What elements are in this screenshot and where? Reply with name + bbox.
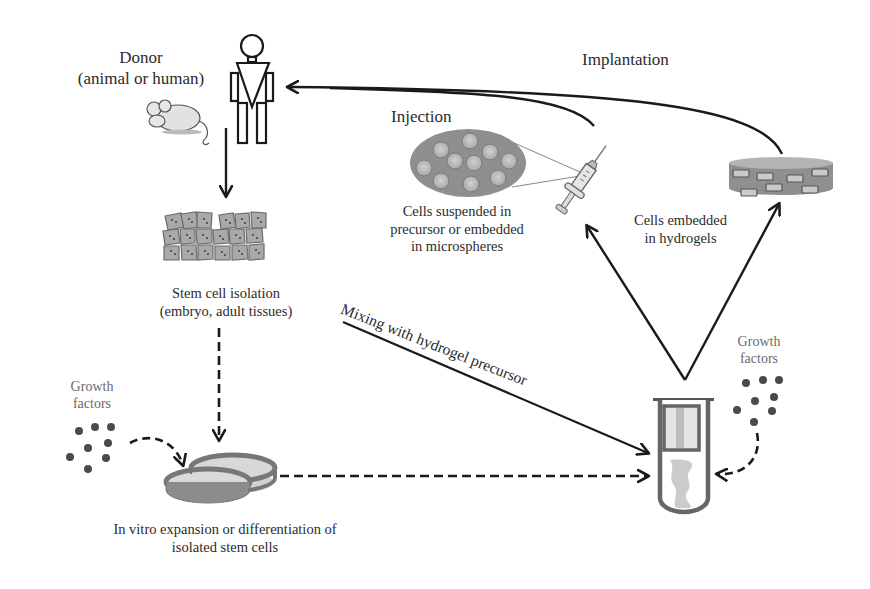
in-vitro-label: In vitro expansion or differentiation of…: [70, 521, 380, 556]
donor-label: Donor (animal or human): [76, 48, 206, 89]
donor-label-line1: Donor: [76, 48, 206, 69]
arrow-mixing-hydrogel: [343, 322, 648, 453]
test-tube-icon: [653, 398, 714, 512]
cells-suspended-line3: in microspheres: [362, 238, 552, 256]
growth-factors-right-label: Growth factors: [729, 333, 789, 367]
injection-label: Injection: [391, 107, 451, 128]
growth-factors-left-line2: factors: [62, 395, 122, 412]
syringe-icon: [551, 139, 615, 217]
cells-embedded-line1: Cells embedded: [618, 212, 743, 230]
in-vitro-line2: isolated stem cells: [70, 539, 380, 557]
growth-factor-dots-left-icon: [66, 423, 115, 473]
cells-suspended-line2: precursor or embedded: [362, 221, 552, 239]
growth-factors-right-line2: factors: [729, 350, 789, 367]
hydrogel-disc-icon: [729, 157, 833, 196]
petri-dish-icon: [166, 455, 275, 503]
cells-embedded-line2: in hydrogels: [618, 230, 743, 248]
stem-cell-isolation-line2: (embryo, adult tissues): [140, 303, 312, 321]
cells-suspended-label: Cells suspended in precursor or embedded…: [362, 203, 552, 256]
arrow-tube-to-syringe: [587, 226, 685, 380]
donor-label-line2: (animal or human): [76, 69, 206, 90]
in-vitro-line1: In vitro expansion or differentiation of: [70, 521, 380, 539]
cell-cluster-icon: [163, 212, 266, 260]
cells-suspended-line1: Cells suspended in: [362, 203, 552, 221]
growth-factors-left-line1: Growth: [62, 378, 122, 395]
growth-factors-right-line1: Growth: [729, 333, 789, 350]
arrow-implantation-hydrogel-to-donor: [288, 87, 782, 154]
microsphere-ellipse-icon: [410, 129, 580, 197]
growth-factors-left-label: Growth factors: [62, 378, 122, 412]
stem-cell-isolation-label: Stem cell isolation (embryo, adult tissu…: [140, 285, 312, 320]
stem-cell-isolation-line1: Stem cell isolation: [140, 285, 312, 303]
mouse-icon: [147, 100, 209, 144]
cells-embedded-label: Cells embedded in hydrogels: [618, 212, 743, 247]
implantation-label: Implantation: [582, 50, 669, 71]
human-figure-icon: [231, 35, 273, 143]
growth-factor-dots-right-icon: [733, 376, 783, 426]
arrow-growth-factors-to-invitro: [130, 438, 183, 465]
arrow-growth-factors-to-tube: [717, 433, 758, 474]
